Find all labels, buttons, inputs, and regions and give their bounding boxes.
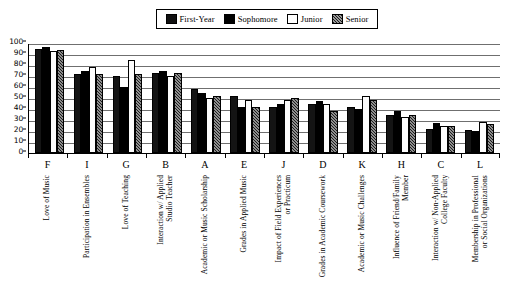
x-axis-category: EGrades in Applied Music <box>225 154 264 282</box>
x-axis-category: BInteraction w/ Applied Studio Teacher <box>146 154 185 282</box>
legend-label-senior: Senior <box>346 15 369 24</box>
x-axis-category: DGrades in Academic Coursework <box>303 154 342 282</box>
x-axis-label: Interaction w/ Applied Studio Teacher <box>157 175 174 245</box>
bar-group <box>69 44 108 153</box>
bar-sophomore <box>42 47 49 153</box>
legend-swatch-icon-junior <box>287 14 298 24</box>
y-tick-label: 30 <box>14 114 23 123</box>
bar-first-year <box>269 107 276 153</box>
bar-senior <box>213 96 220 153</box>
y-tick-mark <box>23 85 26 86</box>
bar-first-year <box>230 96 237 153</box>
x-axis-category: KAcademic or Music Challenges <box>343 154 382 282</box>
y-tick-label: 80 <box>14 59 23 68</box>
bar-group <box>147 44 186 153</box>
x-axis-label: Interaction w/ Non-Applied College Facul… <box>432 175 449 261</box>
bar-group <box>304 44 343 153</box>
x-axis-code: B <box>162 159 169 170</box>
plot-area <box>28 44 500 154</box>
bar-junior <box>206 98 213 153</box>
x-axis-category: IParticipation in Ensembles <box>67 154 106 282</box>
x-axis-label: Academic or Music Scholarship <box>201 175 210 274</box>
bar-junior <box>362 96 369 153</box>
x-axis-code: A <box>201 159 209 170</box>
bar-sophomore <box>394 111 401 153</box>
x-axis-label: Love of Music <box>43 175 52 220</box>
y-tick-label: 60 <box>14 81 23 90</box>
bar-sophomore <box>120 87 127 153</box>
legend-label-first-year: First-Year <box>180 15 215 24</box>
bar-first-year <box>347 107 354 153</box>
x-axis-code: F <box>45 159 51 170</box>
bar-junior <box>89 67 96 153</box>
bar-sophomore <box>198 93 205 154</box>
y-tick-mark <box>23 52 26 53</box>
bar-group <box>108 44 147 153</box>
legend-swatch-icon-first-year <box>166 14 177 24</box>
x-axis-code: J <box>282 159 286 170</box>
bar-sophomore <box>433 123 440 153</box>
bar-junior <box>479 122 486 153</box>
legend-entry-sophomore: Sophomore <box>224 14 278 24</box>
x-axis-code: C <box>437 159 444 170</box>
x-axis-label: Membership in Professional or Social Org… <box>472 175 489 262</box>
x-axis-label: Participation in Ensembles <box>83 175 92 258</box>
bar-senior <box>57 50 64 153</box>
bar-first-year <box>191 89 198 153</box>
bar-senior <box>448 126 455 154</box>
legend-label-sophomore: Sophomore <box>238 15 278 24</box>
x-axis-label: Love of Teaching <box>122 175 131 229</box>
x-axis-category: GLove of Teaching <box>107 154 146 282</box>
y-tick-mark <box>23 63 26 64</box>
x-axis-category: JImpact of Field Experiences or Practicu… <box>264 154 303 282</box>
x-axis-code: E <box>241 159 247 170</box>
bar-first-year <box>426 129 433 153</box>
bar-senior <box>291 98 298 153</box>
y-tick-label: 50 <box>14 92 23 101</box>
x-axis-label: Grades in Academic Coursework <box>319 175 328 277</box>
bar-junior <box>167 76 174 153</box>
bar-junior <box>440 126 447 154</box>
bar-junior <box>284 100 291 153</box>
x-axis-category: HInfluence of Friend/Family Member <box>382 154 421 282</box>
bar-senior <box>330 111 337 153</box>
x-axis-label: Impact of Field Experiences or Practicum <box>275 175 292 262</box>
y-tick-mark <box>23 96 26 97</box>
legend-entry-first-year: First-Year <box>166 14 215 24</box>
x-axis-code: D <box>319 159 327 170</box>
y-tick-mark <box>23 129 26 130</box>
bar-junior <box>128 60 135 154</box>
chart-legend: First-Year Sophomore Junior Senior <box>156 9 378 29</box>
bar-first-year <box>308 104 315 154</box>
bar-first-year <box>386 115 393 154</box>
bar-sophomore <box>159 71 166 154</box>
bar-group <box>264 44 303 153</box>
y-tick-mark <box>23 151 26 152</box>
x-axis-code: K <box>359 159 367 170</box>
bar-first-year <box>35 49 42 154</box>
bar-senior <box>174 73 181 153</box>
y-tick-mark <box>23 74 26 75</box>
bar-senior <box>370 100 377 153</box>
bar-first-year <box>74 74 81 153</box>
x-axis-label: Grades in Applied Music <box>240 175 249 253</box>
legend-entry-junior: Junior <box>287 14 323 24</box>
y-tick-mark <box>23 140 26 141</box>
bar-junior <box>323 104 330 154</box>
bar-group <box>460 44 499 153</box>
legend-swatch-icon-sophomore <box>224 14 235 24</box>
bar-senior <box>252 107 259 153</box>
bar-senior <box>409 115 416 154</box>
bar-senior <box>487 124 494 153</box>
x-axis-category: FLove of Music <box>28 154 67 282</box>
bar-junior <box>245 100 252 153</box>
y-axis: 0102030405060708090100 <box>0 41 26 154</box>
bar-junior <box>401 117 408 153</box>
x-axis: FLove of MusicIParticipation in Ensemble… <box>28 154 500 282</box>
x-axis-label: Academic or Music Challenges <box>358 175 367 272</box>
bar-sophomore <box>277 104 284 154</box>
legend-entry-senior: Senior <box>332 14 369 24</box>
x-axis-code: I <box>85 159 89 170</box>
bar-group <box>186 44 225 153</box>
bar-group <box>30 44 69 153</box>
